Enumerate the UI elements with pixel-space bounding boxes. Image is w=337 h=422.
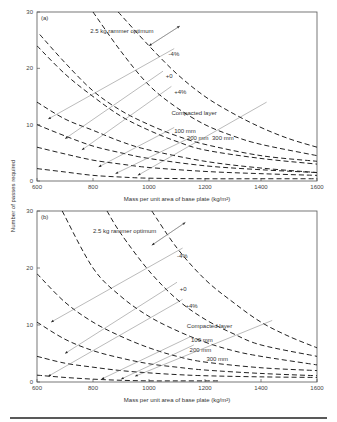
moisture-guide-line [48, 299, 182, 376]
annotation-layer: 200 mm [190, 347, 212, 353]
x-tick-label: 600 [32, 385, 43, 391]
panel-label: (a) [41, 15, 48, 21]
x-tick-label: 1600 [310, 184, 324, 190]
annotation-optimum: 2.5 kg rammer optimum [90, 28, 153, 34]
x-tick-label: 1600 [310, 385, 324, 391]
annotation-moisture: +0 [166, 73, 174, 79]
optimum-arrow-head [149, 26, 180, 46]
annotation-moisture: -4% [169, 51, 180, 57]
annotation-moisture: -4% [177, 253, 188, 259]
x-tick-label: 1200 [198, 385, 212, 391]
arrowhead [82, 147, 85, 150]
annotation-moisture: +4% [185, 303, 198, 309]
layer-guide-line [101, 336, 191, 379]
y-tick-label: 20 [26, 265, 33, 271]
annotation-optimum: 2.5 kg rammer optimum [93, 228, 156, 234]
moisture-guide-line [65, 71, 163, 139]
moisture-guide-line [51, 248, 183, 322]
arrowhead [135, 374, 138, 376]
annotation-layer-title: Compacted layer [187, 323, 232, 329]
layer-guide-line [115, 136, 193, 174]
optimum-arrow-head [152, 222, 186, 245]
annotation-layer: 300 mm [212, 135, 234, 141]
chart-panel-a: 60080010001200140016000102030(a)Mass per… [26, 9, 324, 202]
arrowhead [149, 43, 152, 45]
x-tick-label: 1000 [142, 385, 156, 391]
x-tick-label: 1000 [142, 184, 156, 190]
arrowhead [152, 243, 155, 246]
arrowhead [65, 351, 68, 353]
y-tick-label: 30 [26, 9, 33, 15]
x-tick-label: 600 [32, 184, 43, 190]
x-axis-label: Mass per unit area of base plate (kg/m²) [124, 397, 230, 403]
series-curve [152, 211, 317, 348]
series-curve [37, 46, 317, 164]
moisture-guide-line [48, 49, 174, 119]
annotation-layer-title: Compacted layer [171, 110, 216, 116]
x-tick-label: 1400 [254, 184, 268, 190]
annotation-layer: 300 mm [206, 356, 228, 362]
curves [37, 12, 317, 179]
chart-panel-b: 60080010001200140016000102030(b)Mass per… [26, 208, 324, 403]
moisture-guide-line [65, 282, 177, 353]
panel-label: (b) [41, 214, 48, 220]
plot-frame [37, 211, 317, 382]
series-curve [37, 274, 317, 371]
annotations: 2.5 kg rammer optimum-4%+0+4%Compacted l… [48, 26, 266, 175]
annotation-layer: 100 mm [174, 128, 196, 134]
annotations: 2.5 kg rammer optimum-4%+0+4%Compacted l… [48, 222, 272, 379]
x-tick-label: 800 [88, 385, 99, 391]
annotation-moisture: +0 [180, 286, 188, 292]
y-tick-label: 20 [26, 65, 33, 71]
curves [37, 211, 317, 381]
y-axis-label: Number of passes required [10, 160, 16, 232]
x-tick-label: 1200 [198, 184, 212, 190]
y-tick-label: 30 [26, 208, 33, 214]
x-tick-label: 1400 [254, 385, 268, 391]
x-axis-label: Mass per unit area of base plate (kg/m²) [124, 196, 230, 202]
series-curve [62, 211, 317, 365]
y-tick-label: 10 [26, 122, 33, 128]
y-tick-label: 10 [26, 322, 33, 328]
annotation-layer: 100 mm [191, 337, 213, 343]
figure: 60080010001200140016000102030(a)Mass per… [0, 0, 337, 422]
plot-frame [37, 12, 317, 181]
x-tick-label: 800 [88, 184, 99, 190]
series-curve [37, 147, 317, 175]
annotation-moisture: +4% [174, 89, 187, 95]
layer-guide-line [121, 345, 194, 379]
